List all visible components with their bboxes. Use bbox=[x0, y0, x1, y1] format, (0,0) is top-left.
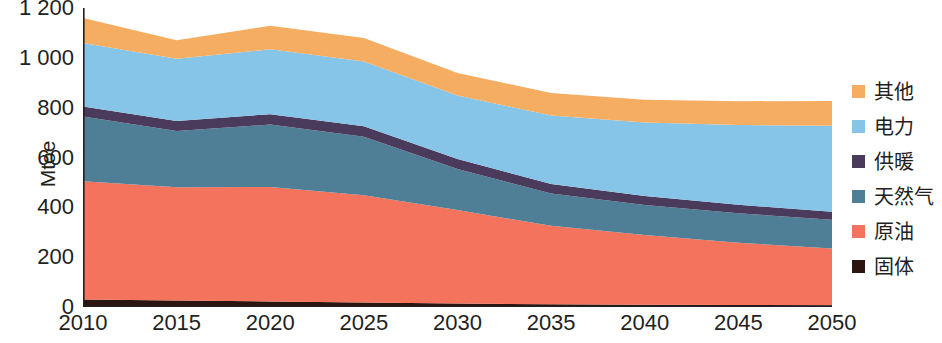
chart-legend: 其他电力供暖天然气原油固体 bbox=[852, 74, 942, 284]
x-axis-tick-label: 2030 bbox=[413, 310, 503, 336]
y-axis-tick-labels: 02004006008001 0001 200 bbox=[0, 0, 74, 343]
legend-swatch-icon bbox=[852, 155, 865, 168]
legend-item[interactable]: 固体 bbox=[852, 249, 942, 284]
legend-item-label: 原油 bbox=[874, 222, 914, 242]
legend-item[interactable]: 原油 bbox=[852, 214, 942, 249]
y-axis-tick-label: 1 200 bbox=[2, 0, 74, 19]
legend-item-label: 供暖 bbox=[874, 152, 914, 172]
x-axis-tick-label: 2025 bbox=[319, 310, 409, 336]
x-axis-tick-label: 2050 bbox=[787, 310, 877, 336]
legend-swatch-icon bbox=[852, 120, 865, 133]
legend-item-label: 固体 bbox=[874, 257, 914, 277]
x-axis-tick-label: 2010 bbox=[38, 310, 128, 336]
legend-item-label: 天然气 bbox=[874, 187, 934, 207]
legend-swatch-icon bbox=[852, 260, 865, 273]
x-axis-tick-label: 2020 bbox=[225, 310, 315, 336]
x-axis-tick-label: 2035 bbox=[506, 310, 596, 336]
y-axis-tick-label: 400 bbox=[2, 196, 74, 218]
legend-item[interactable]: 电力 bbox=[852, 109, 942, 144]
legend-item-label: 其他 bbox=[874, 82, 914, 102]
x-axis-tick-labels: 201020152020202520302035204020452050 bbox=[83, 310, 832, 343]
x-axis-tick-label: 2015 bbox=[132, 310, 222, 336]
legend-swatch-icon bbox=[852, 225, 865, 238]
legend-item[interactable]: 供暖 bbox=[852, 144, 942, 179]
plot-area bbox=[83, 8, 832, 307]
y-axis-tick-label: 200 bbox=[2, 246, 74, 268]
legend-item-label: 电力 bbox=[874, 117, 914, 137]
legend-item[interactable]: 天然气 bbox=[852, 179, 942, 214]
legend-swatch-icon bbox=[852, 190, 865, 203]
x-axis-tick-label: 2045 bbox=[693, 310, 783, 336]
legend-item[interactable]: 其他 bbox=[852, 74, 942, 109]
y-axis-tick-label: 600 bbox=[2, 147, 74, 169]
y-axis-tick-label: 800 bbox=[2, 97, 74, 119]
x-axis-tick-label: 2040 bbox=[600, 310, 690, 336]
chart-container: Mtoe 02004006008001 0001 200 20102015202… bbox=[0, 0, 942, 343]
legend-swatch-icon bbox=[852, 85, 865, 98]
y-axis-tick-label: 1 000 bbox=[2, 47, 74, 69]
stacked-area-plot bbox=[83, 8, 832, 307]
